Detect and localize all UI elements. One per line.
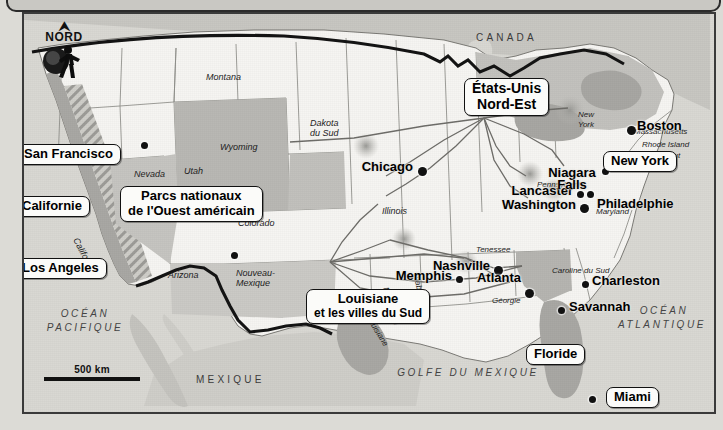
city-dot-memphis[interactable] [456,276,463,283]
city-dot-savannah[interactable] [558,307,565,314]
city-dot-chicago[interactable] [418,167,427,176]
state-label-nouveau-mexique-line2: Mexique [236,278,270,288]
city-dot-los-angeles[interactable] [231,252,238,259]
callout-san-francisco[interactable]: San Francisco [22,144,121,165]
ocean-label-atlantique-line2: ATLANTIQUE [612,318,712,332]
state-label-dakota-du-sud-line1: Dakota [310,118,339,128]
state-label-georgie: Géorgie [492,296,520,305]
city-dot-atlanta[interactable] [525,289,534,298]
walking-figure-logo-icon [41,45,87,81]
scale-bar-rule [44,377,140,381]
compass-label: NORD [32,30,96,44]
city-dot-miami[interactable] [589,396,596,403]
city-label-niagara-falls-line2: Falls [535,177,609,192]
map-canvas: ⮝ NORD CANADA MEXIQUE [22,12,716,414]
ocean-label-golfe-du-mexique: GOLFE DU MEXIQUE [358,366,578,380]
state-label-montana: Montana [206,72,241,82]
callout-miami[interactable]: Miami [606,387,659,408]
city-label-atlanta: Atlanta [477,270,521,285]
state-label-illinois: Illinois [382,206,407,216]
state-label-tenessee: Tenessee [476,245,510,254]
state-label-utah: Utah [184,166,203,176]
callout-etats-unis-nord-est[interactable]: États-Unis Nord-Est [464,78,549,116]
ocean-label-pacifique-line1: OCÉAN [30,307,140,321]
ocean-label-atlantique-line1: OCÉAN [620,304,708,318]
callout-louisiane[interactable]: Louisiane et les villes du Sud [306,289,430,324]
callout-new-york[interactable]: New York [603,151,677,172]
state-label-dakota-du-sud-line2: du Sud [310,128,339,138]
map-screenshot: ⮝ NORD CANADA MEXIQUE [0,0,723,430]
compass: ⮝ NORD [32,20,96,81]
city-dot-boston[interactable] [627,126,636,135]
city-label-philadelphie: Philadelphie [597,196,674,211]
state-label-arizona: Arizona [168,270,199,280]
scale-bar-label: 500 km [44,364,140,375]
city-label-boston: Boston [637,118,682,133]
country-label-canada: CANADA [476,32,537,43]
state-label-wyoming: Wyoming [220,142,258,152]
city-label-charleston: Charleston [592,273,660,288]
callout-los-angeles[interactable]: Los Angeles [22,258,107,279]
city-dot-washington[interactable] [580,204,589,213]
state-label-new-york-line1: New [578,110,594,119]
city-label-chicago: Chicago [362,159,413,174]
state-label-rhode-island: Rhode Island [642,140,689,149]
callout-californie[interactable]: Californie [22,196,90,217]
city-label-savannah: Savannah [569,299,630,314]
city-dot-philadelphie[interactable] [587,191,594,198]
scale-bar: 500 km [44,364,140,381]
city-dot-lancaster[interactable] [577,191,584,198]
ocean-label-pacifique-line2: PACIFIQUE [26,321,144,335]
city-label-memphis: Memphis [396,268,452,283]
state-label-nouveau-mexique-line1: Nouveau- [236,268,275,278]
callout-parcs-nationaux[interactable]: Parcs nationaux de l'Ouest américain [120,186,263,222]
city-dot-san-francisco[interactable] [141,142,148,149]
city-dot-charleston[interactable] [582,281,589,288]
callout-floride[interactable]: Floride [526,344,585,365]
country-label-mexique: MEXIQUE [196,374,265,385]
state-label-nevada: Nevada [134,169,165,179]
cut-off-panel-above [6,0,721,12]
city-label-washington: Washington [502,197,576,212]
state-label-new-york-line2: York [578,120,594,129]
